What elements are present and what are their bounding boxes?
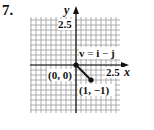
y-axis-label: y [62, 3, 70, 17]
endpoint-point [88, 77, 93, 82]
origin-point [73, 62, 78, 67]
origin-label: (0, 0) [48, 69, 72, 82]
y-axis-arrow-icon [73, 6, 79, 14]
x-tick-label: 2.5 [106, 66, 120, 78]
x-axis-label: x [123, 65, 130, 79]
vector-equation-label: v = i − j [79, 47, 115, 59]
endpoint-label: (1, −1) [79, 84, 109, 97]
coordinate-plane: y x 2.5 2.5 v = i − j (0, 0) (1, −1) [0, 0, 154, 130]
y-tick-label: 2.5 [58, 18, 72, 30]
vector-v [76, 65, 91, 80]
equals-sign: = [85, 47, 97, 59]
minus-sign: − [99, 47, 111, 59]
vector-j-symbol: j [110, 47, 115, 59]
